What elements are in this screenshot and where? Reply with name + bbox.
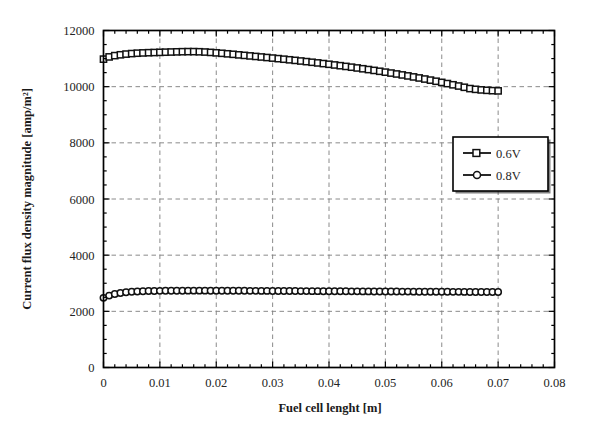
y-axis-title: Current flux density magnitude [amp/m²]	[20, 88, 34, 310]
chart-canvas: 00.010.020.030.040.050.060.070.08 020004…	[0, 0, 603, 438]
legend-box	[453, 137, 548, 191]
y-tick-label: 8000	[70, 136, 95, 150]
legend-label: 0.8V	[496, 169, 521, 183]
x-tick-label: 0.02	[205, 376, 227, 390]
y-tick-label: 0	[88, 361, 94, 375]
y-tick-label: 12000	[63, 24, 94, 38]
x-tick-label: 0.04	[318, 376, 341, 390]
legend-marker-circle	[474, 172, 481, 179]
x-tick-labels: 00.010.020.030.040.050.060.070.08	[100, 376, 565, 390]
legend-marker-square	[473, 150, 480, 157]
x-tick-label: 0.06	[431, 376, 453, 390]
series-marker	[495, 88, 501, 94]
x-axis-title: Fuel cell lenght [m]	[278, 401, 381, 415]
x-tick-label: 0	[100, 376, 106, 390]
y-tick-label: 2000	[70, 305, 95, 319]
chart-legend[interactable]: 0.6V0.8V	[453, 137, 551, 194]
x-tick-label: 0.07	[487, 376, 509, 390]
x-tick-label: 0.01	[149, 376, 171, 390]
legend-label: 0.6V	[496, 147, 521, 161]
x-tick-label: 0.05	[374, 376, 396, 390]
chart-figure: 00.010.020.030.040.050.060.070.08 020004…	[0, 0, 603, 438]
series-marker	[495, 289, 501, 295]
y-tick-label: 6000	[70, 193, 95, 207]
y-tick-label: 10000	[63, 80, 94, 94]
x-tick-label: 0.08	[544, 376, 566, 390]
x-tick-label: 0.03	[262, 376, 284, 390]
y-tick-label: 4000	[70, 249, 95, 263]
